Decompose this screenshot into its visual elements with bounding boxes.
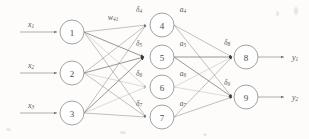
node-3-label: 3: [70, 109, 75, 119]
input-label-x2: x2: [27, 61, 35, 71]
node-9-label: 9: [244, 93, 249, 103]
node-6-label: 6: [160, 83, 165, 93]
node-6[interactable]: 6: [150, 75, 174, 99]
edge-7-8: [174, 57, 232, 117]
output-label-y1: y1: [291, 53, 299, 63]
activation-label-6: a6: [180, 69, 187, 79]
output-variable-labels: y1 y2: [291, 53, 299, 103]
delta-label-4: δ4: [136, 5, 143, 15]
node-7[interactable]: 7: [150, 105, 174, 129]
hidden-layer: 4 5 6 7: [150, 13, 174, 129]
node-4[interactable]: 4: [150, 13, 174, 37]
node-9[interactable]: 9: [234, 85, 258, 109]
neural-network-diagram: 1 2 3 4 5 6: [0, 0, 309, 139]
hidden-activation-labels: a4 a5 a6 a7: [180, 5, 187, 109]
node-1[interactable]: 1: [60, 20, 84, 44]
node-7-label: 7: [160, 113, 165, 123]
node-8[interactable]: 8: [234, 45, 258, 69]
delta-label-6: δ6: [136, 69, 143, 79]
activation-label-7: a7: [180, 99, 187, 109]
edge-1-4: [84, 25, 146, 32]
figure-canvas: 1 2 3 4 5 6: [0, 0, 309, 139]
delta-label-8: δ8: [224, 38, 231, 48]
edge-2-4: [84, 25, 146, 73]
delta-label-9: δ9: [224, 78, 231, 88]
activation-label-5: a5: [180, 39, 187, 49]
output-label-y2: y2: [291, 93, 299, 103]
edge-3-7: [84, 113, 146, 117]
node-5[interactable]: 5: [150, 45, 174, 69]
input-label-x3: x3: [27, 101, 35, 111]
input-arrows: [20, 32, 57, 113]
edge-2-7: [84, 73, 146, 117]
node-2-label: 2: [70, 69, 75, 79]
activation-label-4: a4: [180, 5, 187, 15]
output-arrows: [258, 57, 284, 97]
node-1-label: 1: [70, 28, 75, 38]
node-8-label: 8: [244, 53, 249, 63]
node-2[interactable]: 2: [60, 61, 84, 85]
input-variable-labels: x1 x2 x3: [27, 20, 35, 111]
output-layer: 8 9: [234, 45, 258, 109]
node-4-label: 4: [160, 21, 165, 31]
node-3[interactable]: 3: [60, 101, 84, 125]
input-layer: 1 2 3: [60, 20, 84, 125]
delta-label-5: δ5: [136, 39, 143, 49]
input-label-x1: x1: [27, 20, 35, 30]
delta-label-7: δ7: [136, 99, 143, 109]
edge-6-9: [174, 87, 232, 97]
weight-label-w41: w41: [108, 13, 119, 23]
node-5-label: 5: [160, 53, 165, 63]
